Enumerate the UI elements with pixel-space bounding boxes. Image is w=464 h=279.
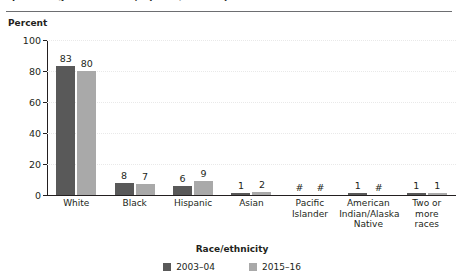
bar-group: 12 (222, 40, 280, 195)
bar[interactable]: 1 (348, 40, 367, 195)
x-axis-line (47, 195, 456, 196)
x-tick-label-line: races (398, 219, 456, 230)
x-tick-label-line: Islander (281, 209, 339, 220)
bar[interactable]: 6 (173, 40, 192, 195)
bar[interactable]: 1 (407, 40, 426, 195)
x-axis-title: Race/ethnicity (0, 244, 464, 254)
bar-value-label: 1 (355, 180, 361, 191)
clipped-caption: percentage distribution, by race/ethnici… (12, 0, 229, 1)
bar[interactable]: # (369, 40, 388, 195)
bar-value-label: 2 (259, 179, 265, 190)
x-tick-label-line: White (47, 198, 105, 209)
bar-group: 69 (164, 40, 222, 195)
x-tick-label-line: Asian (222, 198, 280, 209)
bar-fill (136, 184, 155, 195)
plot-area: 020406080100 8380876912##1#11 (47, 40, 456, 195)
bar-value-label: 1 (238, 180, 244, 191)
bar[interactable]: 2 (252, 40, 271, 195)
square-swatch-icon (249, 263, 257, 271)
bar-value-label: 9 (201, 168, 207, 179)
square-swatch-icon (163, 263, 171, 271)
bar-fill (56, 66, 75, 195)
bar-fill (173, 186, 192, 195)
x-tick-label: Asian (222, 198, 280, 209)
x-tick-label: AmericanIndian/AlaskaNative (339, 198, 397, 230)
y-tick-label: 100 (23, 35, 41, 46)
bar-value-label: 83 (60, 53, 72, 64)
x-axis-tick-labels: WhiteBlackHispanicAsianPacificIslanderAm… (47, 198, 456, 242)
bar[interactable]: 7 (136, 40, 155, 195)
bar[interactable]: # (290, 40, 309, 195)
x-tick-label-line: Native (339, 219, 397, 230)
x-tick-label: Hispanic (164, 198, 222, 209)
bar-value-label: 6 (180, 173, 186, 184)
x-tick-label-line: Two or (398, 198, 456, 209)
x-tick-label: PacificIslander (281, 198, 339, 219)
x-tick-label-line: more (398, 209, 456, 220)
bar-group: 8380 (47, 40, 105, 195)
chart-figure: percentage distribution, by race/ethnici… (0, 0, 464, 279)
x-tick-label-line: American (339, 198, 397, 209)
bar-value-label: 8 (121, 170, 127, 181)
legend-label: 2003–04 (176, 262, 215, 272)
bar[interactable]: 9 (194, 40, 213, 195)
bar-value-label: # (316, 182, 324, 193)
bar-value-label: 1 (413, 180, 419, 191)
bar-value-label: 1 (434, 180, 440, 191)
x-tick-label-line: Pacific (281, 198, 339, 209)
bar-value-label: 80 (81, 58, 93, 69)
bar-group: 11 (398, 40, 456, 195)
bar-fill (115, 183, 134, 195)
header-rule (6, 11, 452, 12)
bar-value-label: 7 (142, 171, 148, 182)
bar[interactable]: 80 (77, 40, 96, 195)
bar[interactable]: 1 (428, 40, 447, 195)
bar-fill (77, 71, 96, 195)
bar[interactable]: 8 (115, 40, 134, 195)
x-tick-label-line: Hispanic (164, 198, 222, 209)
bar[interactable]: 1 (231, 40, 250, 195)
chart-legend: 2003–042015–16 (0, 262, 464, 272)
y-axis-title: Percent (8, 18, 47, 28)
y-tick-label: 60 (29, 97, 41, 108)
x-tick-label: White (47, 198, 105, 209)
y-tick-label: 40 (29, 128, 41, 139)
legend-item[interactable]: 2015–16 (249, 262, 301, 272)
x-tick-label-line: Indian/Alaska (339, 209, 397, 220)
bar-value-label: # (295, 182, 303, 193)
bar[interactable]: 83 (56, 40, 75, 195)
bar-value-label: # (375, 182, 383, 193)
bar-fill (194, 181, 213, 195)
bar-group: 87 (105, 40, 163, 195)
bar-group: 1# (339, 40, 397, 195)
bar-group: ## (281, 40, 339, 195)
x-tick-label-line: Black (105, 198, 163, 209)
y-tick-label: 80 (29, 66, 41, 77)
bar[interactable]: # (311, 40, 330, 195)
x-tick-label: Two ormoreraces (398, 198, 456, 230)
y-tick-label: 0 (35, 190, 41, 201)
x-tick-label: Black (105, 198, 163, 209)
y-tick-label: 20 (29, 159, 41, 170)
legend-label: 2015–16 (262, 262, 301, 272)
legend-item[interactable]: 2003–04 (163, 262, 215, 272)
